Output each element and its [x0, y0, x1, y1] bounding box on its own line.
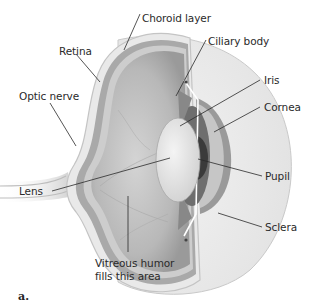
label-optic-nerve: Optic nerve [19, 90, 79, 102]
label-pupil: Pupil [265, 170, 290, 182]
eye-diagram: Choroid layer Retina Ciliary body Optic … [0, 0, 316, 304]
label-retina: Retina [59, 45, 92, 57]
label-ciliary-body: Ciliary body [208, 35, 269, 47]
label-iris: Iris [264, 74, 279, 86]
label-vitreous-line2: fills this area [95, 270, 161, 282]
label-sclera: Sclera [265, 221, 297, 233]
label-cornea: Cornea [264, 101, 301, 113]
label-vitreous-line1: Vitreous humor [95, 257, 174, 269]
panel-label: a. [18, 290, 29, 303]
label-lens: Lens [19, 185, 43, 197]
label-choroid-layer: Choroid layer [142, 12, 211, 24]
